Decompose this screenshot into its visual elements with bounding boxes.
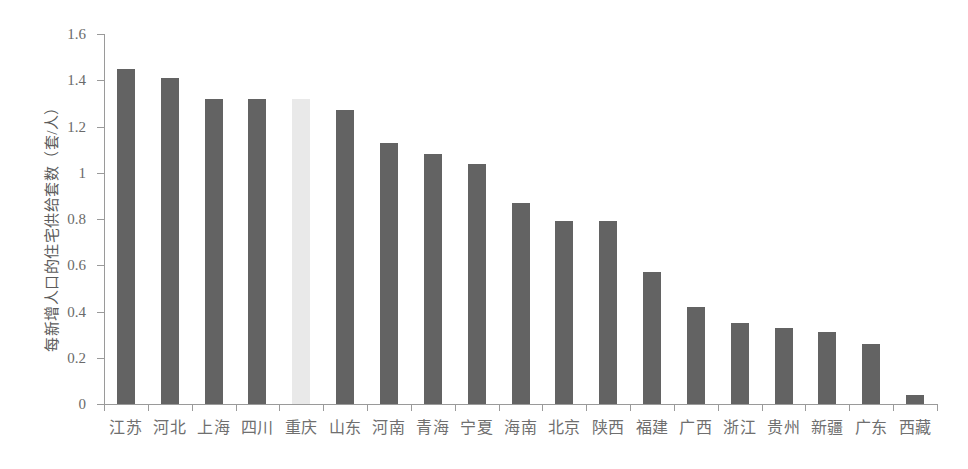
x-axis-tick-label: 上海 (197, 414, 230, 438)
bar[interactable] (380, 143, 398, 404)
x-axis-tick (367, 404, 368, 411)
bar[interactable] (775, 328, 793, 404)
x-axis-tick-label: 贵州 (767, 414, 800, 438)
bar[interactable] (205, 99, 223, 404)
y-axis-line (104, 34, 105, 404)
x-axis-tick-label: 河北 (153, 414, 186, 438)
y-axis-tick (97, 265, 104, 266)
x-axis-tick-label: 青海 (416, 414, 449, 438)
y-axis-tick (97, 219, 104, 220)
y-axis-tick (97, 404, 104, 405)
x-axis-tick (718, 404, 719, 411)
x-axis-line (104, 404, 937, 405)
x-axis-tick (849, 404, 850, 411)
y-axis-tick-label: 0.8 (67, 211, 86, 228)
y-axis-tick-label: 0.2 (67, 349, 86, 366)
x-axis-tick-label: 山东 (329, 414, 362, 438)
x-axis-tick (630, 404, 631, 411)
bar[interactable] (424, 154, 442, 404)
y-axis-tick (97, 34, 104, 35)
x-axis-tick (674, 404, 675, 411)
y-axis-tick-label: 0 (79, 396, 87, 413)
bar[interactable] (599, 221, 617, 404)
x-axis-tick-label: 浙江 (723, 414, 756, 438)
bar[interactable] (248, 99, 266, 404)
x-axis-tick-label: 重庆 (285, 414, 318, 438)
bar[interactable] (906, 395, 924, 404)
y-axis-tick-label: 1.6 (67, 26, 86, 43)
x-axis-tick (323, 404, 324, 411)
bar[interactable] (292, 99, 310, 404)
y-axis-tick-label: 1.4 (67, 72, 86, 89)
x-axis-tick (236, 404, 237, 411)
x-axis-tick-label: 广西 (679, 414, 712, 438)
x-axis-tick (192, 404, 193, 411)
x-axis-tick (937, 404, 938, 411)
y-axis-tick (97, 173, 104, 174)
x-axis-tick (455, 404, 456, 411)
x-axis-tick (104, 404, 105, 411)
bar[interactable] (818, 332, 836, 404)
x-axis-tick-label: 新疆 (811, 414, 844, 438)
x-axis-tick-label: 河南 (372, 414, 405, 438)
plot-area (104, 34, 937, 404)
bar[interactable] (555, 221, 573, 404)
x-axis-tick (279, 404, 280, 411)
y-axis-tick-label: 1.2 (67, 118, 86, 135)
x-axis-tick-label: 北京 (548, 414, 581, 438)
x-axis-tick-label: 海南 (504, 414, 537, 438)
y-axis-tick (97, 312, 104, 313)
x-axis-tick (893, 404, 894, 411)
x-axis-tick (499, 404, 500, 411)
x-axis-tick-label: 宁夏 (460, 414, 493, 438)
x-axis-tick (148, 404, 149, 411)
y-axis-tick-label: 0.4 (67, 303, 86, 320)
bar[interactable] (731, 323, 749, 404)
x-axis-tick (411, 404, 412, 411)
bar[interactable] (336, 110, 354, 404)
x-axis-tick-labels: 江苏河北上海四川重庆山东河南青海宁夏海南北京陕西福建广西浙江贵州新疆广东西藏 (104, 414, 937, 454)
x-axis-tick-label: 福建 (636, 414, 669, 438)
x-axis-tick-label: 陕西 (592, 414, 625, 438)
x-axis-tick-label: 广东 (855, 414, 888, 438)
bar[interactable] (687, 307, 705, 404)
y-axis-tick (97, 358, 104, 359)
y-axis-tick-label: 1 (79, 164, 87, 181)
y-axis-tick-labels: 00.20.40.60.811.21.41.6 (0, 34, 96, 404)
y-axis-tick (97, 127, 104, 128)
x-axis-tick (762, 404, 763, 411)
bar[interactable] (117, 69, 135, 404)
x-axis-tick (586, 404, 587, 411)
x-axis-tick (542, 404, 543, 411)
bar[interactable] (161, 78, 179, 404)
bar[interactable] (468, 164, 486, 405)
x-axis-tick-label: 江苏 (109, 414, 142, 438)
y-axis-tick (97, 80, 104, 81)
bar-chart: 每新增人口的住宅供给套数（套/人） 00.20.40.60.811.21.41.… (0, 0, 968, 469)
y-axis-tick-label: 0.6 (67, 257, 86, 274)
bar[interactable] (512, 203, 530, 404)
x-axis-tick (805, 404, 806, 411)
x-axis-tick-label: 四川 (241, 414, 274, 438)
bar[interactable] (862, 344, 880, 404)
bar[interactable] (643, 272, 661, 404)
x-axis-tick-label: 西藏 (899, 414, 932, 438)
